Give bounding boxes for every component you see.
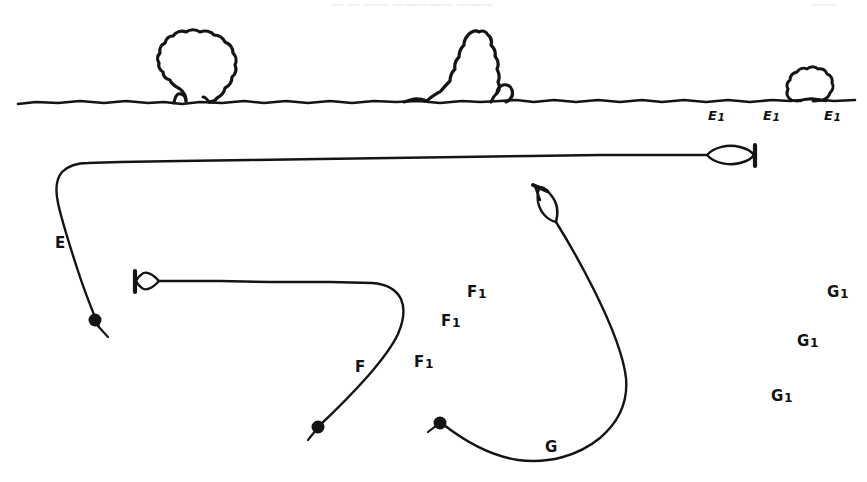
ground-line (18, 99, 855, 104)
curve-e (56, 145, 755, 337)
arrowhead-g (533, 185, 557, 222)
field-label-f1: F1 (467, 285, 486, 300)
curve-f (135, 271, 403, 440)
curve-label-f: F (355, 360, 365, 375)
ground-label-e1: E1 (824, 109, 841, 123)
curve-label-g: G (545, 440, 558, 455)
arrowhead-e (707, 145, 755, 166)
arrowhead-f (135, 271, 159, 292)
figure-canvas: — — —— ————— ——— —— (0, 0, 867, 482)
ground-label-e1: E1 (708, 109, 725, 123)
bush-small (787, 67, 833, 101)
tree-large-jagged (404, 31, 512, 102)
field-label-g1: G1 (827, 285, 848, 300)
field-label-f1: F1 (414, 355, 433, 370)
field-label-g1: G1 (771, 389, 792, 404)
tree-large-round (158, 30, 236, 103)
field-label-f1: F1 (441, 314, 460, 329)
field-label-g1: G1 (797, 334, 818, 349)
curve-label-e: E (55, 236, 65, 251)
ground-label-e1: E1 (763, 109, 780, 123)
diagram-drawing (0, 0, 867, 482)
